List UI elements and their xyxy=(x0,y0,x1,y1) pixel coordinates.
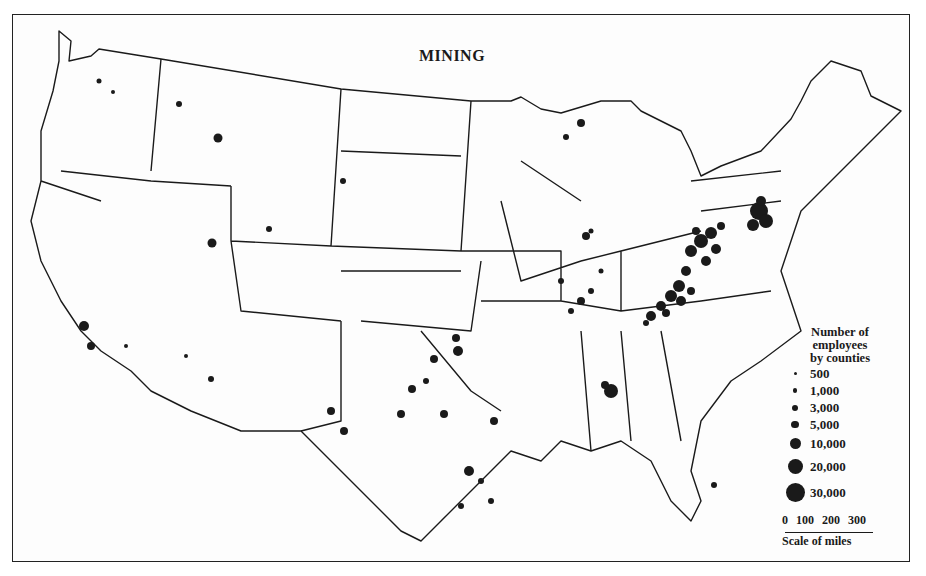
us-outline xyxy=(31,31,901,541)
map-frame: MINING xyxy=(12,14,910,562)
dot-icon xyxy=(786,483,805,502)
dot-icon xyxy=(793,388,798,393)
us-state-outline-map xyxy=(13,15,911,563)
legend-entry: 1,000 xyxy=(780,382,900,399)
legend-heading-3: by counties xyxy=(780,352,900,365)
dot-icon xyxy=(791,421,799,429)
scale-line xyxy=(785,528,873,533)
map-title: MINING xyxy=(419,47,485,65)
scale-label: Scale of miles xyxy=(782,534,873,549)
legend-entry: 30,000 xyxy=(780,479,900,506)
legend-entry: 3,000 xyxy=(780,399,900,416)
dot-icon xyxy=(794,372,797,375)
legend-entry: 5,000 xyxy=(780,416,900,433)
legend: Number of employees by counties 500 1,00… xyxy=(780,326,900,506)
scale-bar: 0 100 200 300 Scale of miles xyxy=(782,513,873,549)
dot-icon xyxy=(792,405,798,411)
dot-icon xyxy=(788,459,803,474)
legend-entry: 10,000 xyxy=(780,433,900,454)
legend-entry: 500 xyxy=(780,365,900,382)
dot-icon xyxy=(790,438,801,449)
legend-entry: 20,000 xyxy=(780,454,900,479)
